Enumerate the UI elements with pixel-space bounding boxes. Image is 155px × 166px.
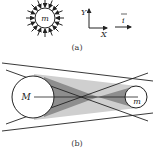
radial-arrow-icon [49, 0, 52, 7]
radial-arrow-icon [53, 26, 59, 32]
radial-arrow-icon [53, 5, 59, 11]
radial-arrow-icon [38, 0, 41, 7]
axis-x-label: X [100, 30, 107, 39]
radial-arrow-icon [27, 22, 34, 25]
radial-arrow-icon [49, 28, 52, 35]
small-body-label: m [133, 97, 141, 106]
large-body-label: M [20, 92, 31, 102]
radial-arrow-icon [55, 22, 62, 25]
radial-arrow-icon [27, 11, 34, 14]
figure-a: m Y X i (a) [26, 0, 131, 52]
vector-label: i [122, 16, 125, 25]
caption-a: (a) [71, 43, 82, 52]
figure-b: M m (b) [2, 63, 153, 148]
radial-arrow-icon [55, 11, 62, 14]
radial-arrow-icon [38, 28, 41, 35]
radial-arrow-icon [32, 5, 38, 11]
coordinate-axes: Y X [81, 8, 107, 39]
physics-diagram: m Y X i (a) M m [0, 0, 155, 166]
mass-label-m: m [41, 14, 49, 23]
radial-arrow-icon [32, 26, 38, 32]
caption-b: (b) [71, 139, 82, 148]
axis-y-label: Y [81, 8, 87, 17]
unit-vector-i: i [115, 14, 131, 27]
